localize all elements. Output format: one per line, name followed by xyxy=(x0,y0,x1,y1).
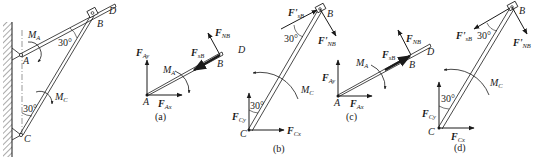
label-fsb: FsB xyxy=(190,47,204,59)
caption-d: (d) xyxy=(454,142,466,154)
angle-b-label: 30° xyxy=(284,33,298,44)
label-d: D xyxy=(426,46,435,57)
label-fnb-prime: F'NB xyxy=(512,37,531,49)
main-figure: MA MC 30° 30° A B C D xyxy=(3,4,117,157)
label-fnb-prime: F'NB xyxy=(317,35,336,47)
label-fsb: FsB xyxy=(381,49,395,61)
angle-c-label: 30° xyxy=(441,93,455,104)
caption-b: (b) xyxy=(273,143,285,155)
label-mc: MC xyxy=(54,91,68,103)
label-c: C xyxy=(24,133,31,144)
angle-c-label: 30° xyxy=(250,100,264,111)
label-d: D xyxy=(108,5,117,16)
label-ma: MA xyxy=(355,57,368,69)
angle-arc-c xyxy=(439,106,449,109)
wall-hatch xyxy=(3,22,12,157)
label-ma: MA xyxy=(162,64,175,76)
label-fsb-prime: F'sB xyxy=(455,30,472,42)
label-fay: FAy xyxy=(321,72,335,84)
angle-b-label: 30° xyxy=(58,37,72,48)
label-fnb: FNB xyxy=(214,27,230,39)
caption-c: (c) xyxy=(346,111,357,123)
label-fcy: FCy xyxy=(421,108,436,120)
moment-ma-arc xyxy=(371,65,385,89)
label-a: A xyxy=(333,97,341,108)
label-b: B xyxy=(97,18,103,29)
label-fcx: FCx xyxy=(286,125,301,137)
label-a: A xyxy=(22,55,30,66)
label-fay: FAy xyxy=(135,47,149,59)
panel-d: F'sB 30° F'NB MC FCy 30° FCx C B (d) xyxy=(421,1,531,154)
label-c: C xyxy=(240,128,247,139)
label-fax: FAx xyxy=(349,98,364,110)
moment-ma-arc xyxy=(28,42,41,62)
moment-mc-arc xyxy=(444,69,489,95)
label-b: B xyxy=(327,8,333,19)
force-fsb-prime xyxy=(474,8,510,29)
moment-mc-arc xyxy=(253,72,298,99)
label-ma: MA xyxy=(27,29,40,41)
label-b: B xyxy=(217,58,223,69)
panel-b: F'sB F'NB 30° MC FCy 30° FCx C B (b) xyxy=(231,3,336,155)
angle-b-label: 30° xyxy=(477,30,491,41)
label-fsb-prime: F'sB xyxy=(287,7,304,19)
label-fax: FAx xyxy=(157,98,172,110)
angle-c-label: 30° xyxy=(23,103,37,114)
label-mc: MC xyxy=(489,77,503,89)
panel-a: FAy FAx MA FsB FNB A B D (a) xyxy=(135,27,246,123)
label-fcy: FCy xyxy=(231,111,246,123)
label-b: B xyxy=(409,59,415,70)
pin-b xyxy=(91,12,94,15)
label-b: B xyxy=(519,5,525,16)
label-a: A xyxy=(142,96,150,107)
panel-c: FAy FAx MA FsB FNB A B D (c) xyxy=(321,30,435,123)
label-mc: MC xyxy=(300,84,314,96)
statics-diagram: MA MC 30° 30° A B C D FAy FAx MA FsB xyxy=(0,0,537,167)
label-c: C xyxy=(428,126,435,137)
caption-a: (a) xyxy=(155,111,166,123)
label-fnb: FNB xyxy=(405,33,421,45)
label-d: D xyxy=(237,44,246,55)
